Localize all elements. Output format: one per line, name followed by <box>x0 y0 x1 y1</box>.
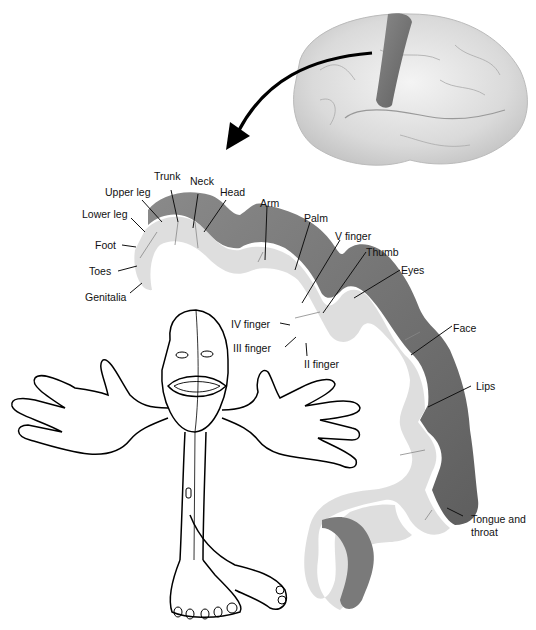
diagram-canvas <box>0 0 536 630</box>
homunculus-right-hand <box>222 370 360 467</box>
label-iv-finger: IV finger <box>231 318 270 330</box>
label-iii-finger: III finger <box>233 342 271 354</box>
label-head: Head <box>220 186 245 198</box>
label-throat: throat <box>471 526 498 538</box>
homunculus-head <box>162 310 228 432</box>
label-foot: Foot <box>95 239 116 251</box>
homunculus-body <box>180 432 206 560</box>
label-arm: Arm <box>260 197 279 209</box>
homunculus-left-hand <box>12 360 168 455</box>
label-lips: Lips <box>476 380 495 392</box>
label-thumb: Thumb <box>366 246 399 258</box>
label-neck: Neck <box>190 175 214 187</box>
label-eyes: Eyes <box>401 264 424 276</box>
label-upper-leg: Upper leg <box>105 186 151 198</box>
brain-inset <box>294 13 528 165</box>
label-ii-finger: II finger <box>304 358 339 370</box>
cortex-strip <box>134 192 478 610</box>
label-palm: Palm <box>304 212 328 224</box>
label-trunk: Trunk <box>154 170 180 182</box>
homunculus-lips <box>168 376 226 396</box>
label-genitalia: Genitalia <box>85 291 126 303</box>
arrow-head-icon <box>226 122 250 150</box>
label-lower-leg: Lower leg <box>82 208 128 220</box>
label-toes: Toes <box>89 265 111 277</box>
label-face: Face <box>453 322 476 334</box>
homunculus-genitalia <box>186 488 191 498</box>
label-tongue-and: Tongue and <box>471 513 526 525</box>
label-v-finger: V finger <box>335 230 371 242</box>
